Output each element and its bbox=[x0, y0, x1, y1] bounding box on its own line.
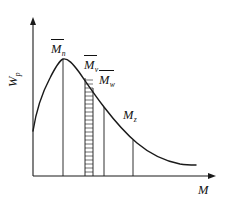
overbar-mw bbox=[99, 70, 114, 71]
x-axis-arrowhead bbox=[208, 173, 216, 179]
overbar-mn bbox=[51, 39, 64, 40]
y-axis-label: Wp bbox=[4, 73, 20, 87]
molecular-weight-distribution-figure: Mn Mv Mw Mz M Wp bbox=[0, 0, 231, 205]
overbar-mv bbox=[84, 55, 97, 56]
marker-label-mw-base: M bbox=[99, 74, 109, 87]
figure-canvas bbox=[0, 0, 231, 205]
y-axis-arrowhead bbox=[30, 17, 36, 25]
marker-label-mw: Mw bbox=[99, 71, 115, 87]
x-axis-label-text: M bbox=[198, 184, 208, 197]
marker-label-mv-base: M bbox=[84, 59, 94, 72]
marker-label-mz-subscript: z bbox=[134, 115, 137, 124]
marker-label-mz: Mz bbox=[123, 106, 136, 122]
marker-label-mw-subscript: w bbox=[110, 80, 115, 89]
marker-label-mv: Mv bbox=[84, 56, 98, 72]
marker-label-mz-base: M bbox=[123, 109, 133, 122]
marker-label-mn-base: M bbox=[51, 43, 61, 56]
hatched-band-mv bbox=[85, 78, 93, 176]
hatch-lines-mv bbox=[85, 80, 93, 172]
distribution-curve bbox=[33, 59, 196, 165]
y-axis-label-base: W bbox=[7, 77, 20, 87]
y-axis-label-subscript: p bbox=[13, 73, 22, 77]
marker-label-mn-subscript: n bbox=[62, 49, 66, 58]
marker-label-mn: Mn bbox=[51, 40, 65, 56]
x-axis-label: M bbox=[198, 181, 208, 197]
marker-label-mv-subscript: v bbox=[95, 65, 98, 74]
